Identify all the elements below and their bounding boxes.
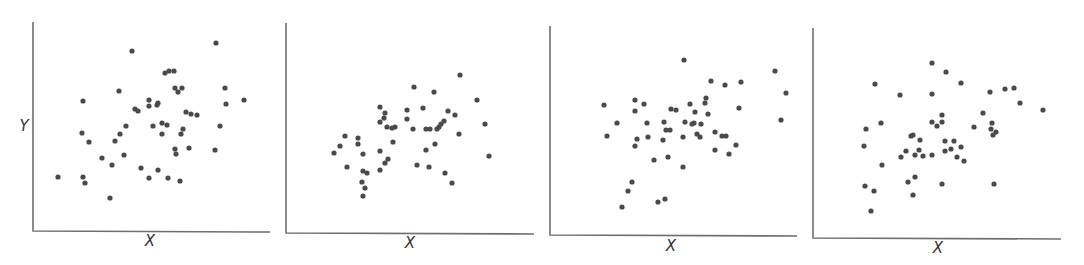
data-point: [910, 192, 915, 197]
data-point: [879, 162, 884, 167]
data-point: [934, 123, 939, 128]
data-point: [871, 188, 876, 193]
data-point: [1017, 100, 1022, 105]
data-point: [1011, 85, 1016, 90]
data-point: [988, 126, 993, 131]
data-point: [905, 179, 910, 184]
data-point: [951, 138, 956, 143]
data-point: [868, 208, 873, 213]
data-point: [929, 91, 934, 96]
data-point: [1040, 107, 1045, 112]
data-point: [929, 119, 934, 124]
data-point: [897, 92, 902, 97]
scatter-plot-figure: XY X X X: [0, 0, 1084, 265]
data-point: [980, 110, 985, 115]
data-point: [954, 154, 959, 159]
data-point: [862, 183, 867, 188]
data-point: [910, 132, 915, 137]
data-point: [920, 153, 925, 158]
data-point: [939, 181, 944, 186]
axis-lines: [813, 28, 1061, 239]
data-point: [872, 81, 877, 86]
data-point: [903, 148, 908, 153]
data-point: [863, 126, 868, 131]
data-point: [961, 158, 966, 163]
scatter-panel-4: X: [0, 0, 1084, 265]
data-point: [861, 143, 866, 148]
data-point: [942, 148, 947, 153]
data-point: [942, 138, 947, 143]
data-point: [878, 120, 883, 125]
data-point: [939, 119, 944, 124]
data-point: [948, 146, 953, 151]
data-point: [958, 80, 963, 85]
data-point: [990, 132, 995, 137]
data-point: [971, 124, 976, 129]
data-point: [929, 152, 934, 157]
data-point: [939, 112, 944, 117]
data-point: [912, 174, 917, 179]
data-point: [1002, 86, 1007, 91]
x-axis-label: X: [932, 239, 944, 257]
data-point: [991, 181, 996, 186]
data-point: [912, 152, 917, 157]
data-point: [958, 144, 963, 149]
data-point: [916, 147, 921, 152]
data-point: [929, 60, 934, 65]
data-point: [898, 154, 903, 159]
data-point: [943, 69, 948, 74]
data-point: [917, 137, 922, 142]
data-point: [989, 120, 994, 125]
data-point: [987, 89, 992, 94]
